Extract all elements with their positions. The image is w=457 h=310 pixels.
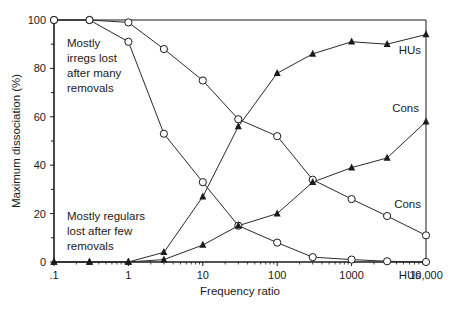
series-label: Cons <box>392 102 419 114</box>
triangle-marker <box>423 117 430 124</box>
circle-marker <box>86 16 93 23</box>
x-axis-label: Frequency ratio <box>200 285 280 297</box>
triangle-marker <box>199 241 206 248</box>
series-labels: ConsHUsHUsCons <box>392 44 421 281</box>
circle-marker <box>348 256 355 263</box>
y-tick-label: 100 <box>28 14 46 26</box>
circle-marker <box>199 77 206 84</box>
y-tick-label: 80 <box>34 62 46 74</box>
series-label: Cons <box>394 198 421 210</box>
circle-marker <box>383 212 390 219</box>
annotation-text: removals <box>67 82 114 94</box>
triangle-marker <box>274 209 281 216</box>
y-tick-label: 20 <box>34 208 46 220</box>
circle-marker <box>235 116 242 123</box>
annotation-text: removals <box>67 240 114 252</box>
x-tick-label: 10 <box>197 269 209 281</box>
x-tick-label: 1 <box>125 269 131 281</box>
triangle-marker <box>348 38 355 45</box>
circle-marker <box>422 232 429 239</box>
y-axis-label: Maximum dissociation (%) <box>10 74 22 208</box>
series-label: HUs <box>399 44 422 56</box>
annotation-text: lost after few <box>67 225 133 237</box>
y-tick-label: 60 <box>34 111 46 123</box>
circle-marker <box>125 19 132 26</box>
circle-marker <box>274 239 281 246</box>
triangle-marker <box>199 192 206 199</box>
triangle-marker <box>274 69 281 76</box>
circle-marker <box>422 258 429 265</box>
annotation-text: irregs lost <box>67 52 118 64</box>
circle-marker <box>348 195 355 202</box>
circle-marker <box>274 133 281 140</box>
circle-marker <box>383 258 390 265</box>
circle-marker <box>309 254 316 261</box>
annotation-text: Mostly <box>67 37 100 49</box>
triangle-marker <box>384 154 391 161</box>
circle-marker <box>160 130 167 137</box>
y-tick-label: 40 <box>34 159 46 171</box>
x-tick-label: 100 <box>268 269 286 281</box>
x-tick-label: 1000 <box>339 269 363 281</box>
annotation-text: Mostly regulars <box>67 210 145 222</box>
annotations: Mostlyirregs lostafter manyremovalsMostl… <box>67 37 145 252</box>
circle-marker <box>199 179 206 186</box>
circle-marker <box>50 16 57 23</box>
y-tick-label: 0 <box>40 256 46 268</box>
dissociation-chart: 020406080100.1110100100010,000 ConsHUsHU… <box>0 0 457 310</box>
circle-marker <box>160 45 167 52</box>
series-label: HUs <box>399 269 422 281</box>
x-tick-label: .1 <box>49 269 58 281</box>
circle-marker <box>125 38 132 45</box>
annotation-text: after many <box>67 67 122 79</box>
triangle-marker <box>423 30 430 37</box>
